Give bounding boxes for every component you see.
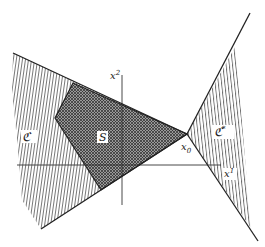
x2-axis-label: x2 [110,69,121,81]
diagram-canvas: ℭ S ℭ* x2 x1 x0 [0,0,265,247]
set-s-label: S [99,131,107,144]
x0-point-label: x0 [181,141,192,155]
